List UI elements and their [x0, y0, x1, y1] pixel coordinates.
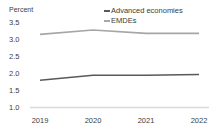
legend-swatch-icon	[104, 20, 110, 22]
series-line	[40, 75, 199, 81]
legend-item-advanced-economies: Advanced economies	[104, 6, 183, 15]
legend-label: EMDEs	[111, 16, 136, 25]
series-line	[40, 30, 199, 34]
chart-legend: Advanced economies EMDEs	[104, 6, 183, 25]
legend-swatch-icon	[104, 10, 110, 12]
series-layer	[40, 30, 199, 80]
legend-item-emdes: EMDEs	[104, 16, 136, 25]
legend-label: Advanced economies	[111, 6, 183, 15]
line-chart: Percent 3.53.02.52.01.51.0 2019202020212…	[0, 0, 215, 133]
